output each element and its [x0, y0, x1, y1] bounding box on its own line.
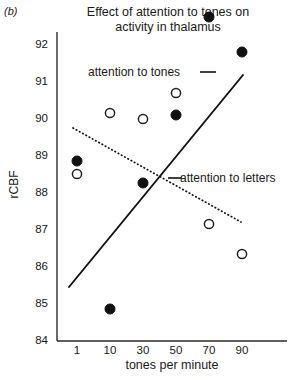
data-point-tones-50 [171, 110, 181, 120]
data-point-tones-10 [105, 304, 115, 314]
data-point-letters-50 [171, 88, 180, 97]
plot-canvas [0, 0, 297, 380]
data-point-letters-1 [72, 169, 81, 178]
data-point-tones-30 [138, 178, 148, 188]
data-point-letters-10 [105, 108, 114, 117]
data-point-letters-30 [138, 114, 147, 123]
data-point-tones-70 [204, 12, 214, 22]
data-point-tones-1 [72, 156, 82, 166]
data-point-letters-90 [237, 249, 246, 258]
fit-line-attention-to-tones [69, 75, 243, 287]
fit-line-attention-to-letters [73, 128, 241, 222]
figure-panel: (b) Effect of attention to tones on acti… [0, 0, 297, 380]
data-point-letters-70 [204, 219, 213, 228]
data-point-tones-90 [237, 47, 247, 57]
